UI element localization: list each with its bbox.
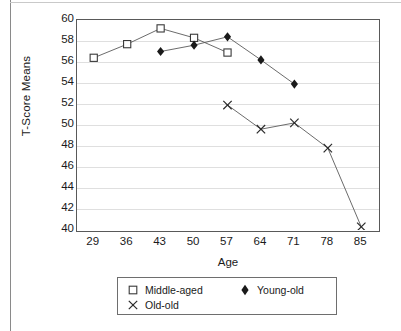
y-tick-label: 60 [48, 13, 74, 25]
data-point-open-square [190, 34, 197, 41]
x-axis-tick-labels: 293643505764717885 [76, 236, 380, 252]
legend-item-young-old[interactable]: Young-old [238, 283, 304, 297]
data-point-cross [357, 223, 365, 230]
series-young-old [157, 32, 298, 88]
y-tick-label: 48 [48, 139, 74, 151]
y-tick-label: 46 [48, 160, 74, 172]
y-tick-label: 42 [48, 202, 74, 214]
chart-legend: Middle-agedYoung-oldOld-old [117, 277, 337, 315]
x-axis-title: Age [76, 256, 380, 268]
x-tick-label: 78 [312, 236, 342, 248]
data-point-filled-diamond [257, 55, 264, 64]
data-point-filled-diamond [224, 32, 231, 41]
x-tick-label: 36 [111, 236, 141, 248]
data-point-open-square [90, 54, 97, 61]
y-axis-title: T-Score Means [20, 26, 32, 166]
y-tick-label: 52 [48, 97, 74, 109]
y-tick-label: 58 [48, 34, 74, 46]
legend-item-label: Middle-aged [145, 284, 203, 296]
series-line [161, 37, 295, 84]
x-tick-label: 29 [78, 236, 108, 248]
data-point-filled-diamond [291, 79, 298, 88]
data-point-filled-diamond [157, 47, 164, 56]
legend-item-label: Old-old [145, 299, 179, 311]
cross-icon [126, 298, 140, 312]
x-tick-label: 71 [278, 236, 308, 248]
x-tick-label: 43 [145, 236, 175, 248]
data-point-open-square [224, 49, 231, 56]
series-old-old [223, 101, 365, 230]
y-tick-label: 54 [48, 76, 74, 88]
data-point-open-square [157, 25, 164, 32]
legend-item-middle-aged[interactable]: Middle-aged [126, 283, 203, 297]
chart-figure: T-Score Means 6058565452504846444240 293… [0, 0, 401, 331]
data-point-cross [324, 144, 332, 152]
y-tick-label: 40 [48, 223, 74, 235]
y-tick-label: 50 [48, 118, 74, 130]
plot-inner [77, 20, 379, 231]
x-tick-label: 64 [245, 236, 275, 248]
legend-item-old-old[interactable]: Old-old [126, 298, 179, 312]
x-tick-label: 57 [212, 236, 242, 248]
x-tick-label: 50 [178, 236, 208, 248]
gridline [77, 230, 379, 231]
filled-diamond-icon [238, 283, 252, 297]
data-point-cross [290, 119, 298, 127]
data-point-open-square [124, 41, 131, 48]
data-point-cross [223, 101, 231, 109]
x-tick-label: 85 [345, 236, 375, 248]
plot-area [76, 19, 380, 232]
open-square-icon [126, 283, 140, 297]
y-tick-label: 56 [48, 55, 74, 67]
data-point-cross [257, 125, 265, 133]
y-tick-label: 44 [48, 181, 74, 193]
data-series-layer [77, 20, 378, 230]
legend-item-label: Young-old [257, 284, 304, 296]
